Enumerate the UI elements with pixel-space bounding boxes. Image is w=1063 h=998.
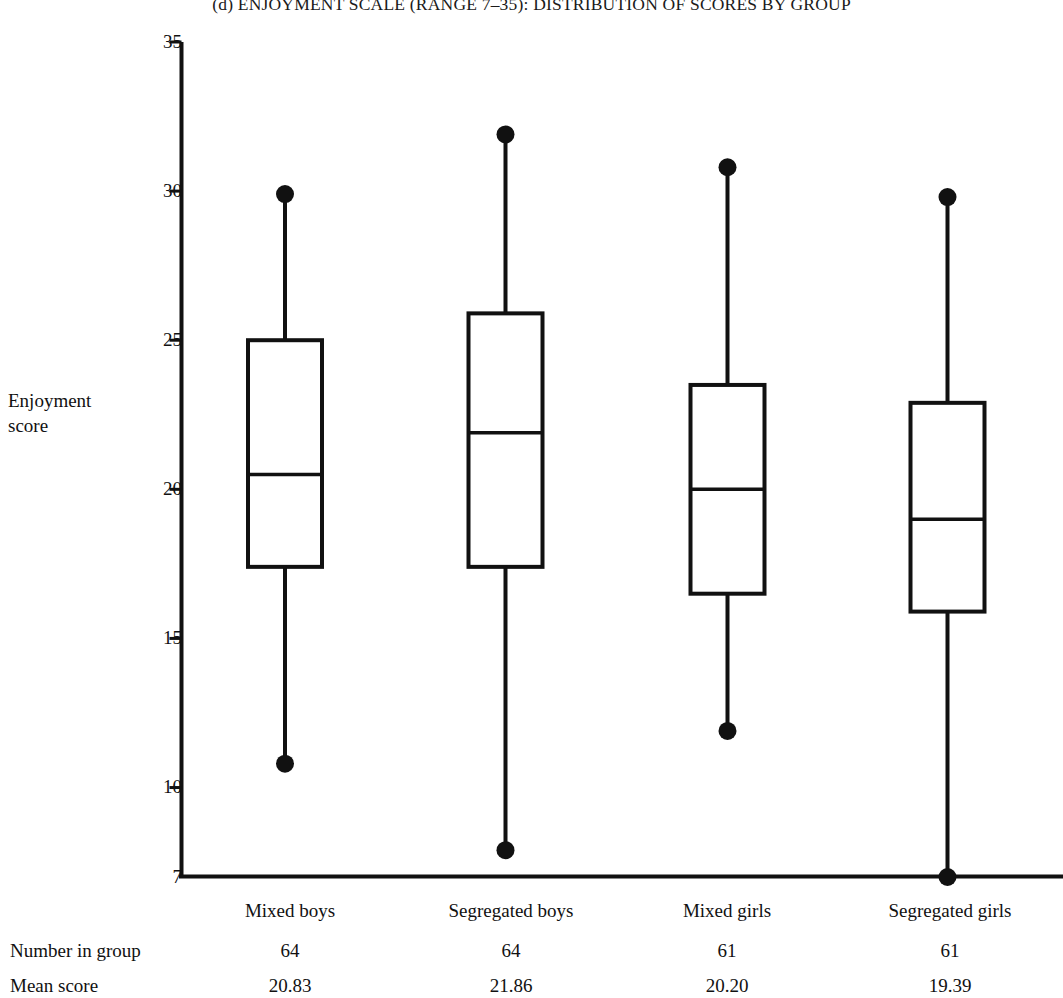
upper-extreme-dot: [939, 188, 957, 206]
lower-extreme-dot: [497, 841, 515, 859]
number-in-group-3: 61: [845, 940, 1055, 962]
number-in-group-2: 61: [632, 940, 822, 962]
lower-extreme-dot: [939, 868, 957, 886]
lower-extreme-dot: [719, 722, 737, 740]
upper-extreme-dot: [497, 125, 515, 143]
boxplot-group-3: [911, 188, 985, 886]
upper-extreme-dot: [276, 185, 294, 203]
box-iqr: [911, 403, 985, 612]
boxplot-group-2: [691, 158, 765, 740]
box-iqr: [248, 340, 322, 567]
boxplot-group-1: [469, 125, 543, 859]
group-label-2: Mixed girls: [632, 900, 822, 922]
mean-score-0: 20.83: [190, 975, 390, 997]
figure-container: (d) ENJOYMENT SCALE (RANGE 7–35): DISTRI…: [0, 0, 1063, 998]
boxplot-group-0: [248, 185, 322, 773]
number-in-group-1: 64: [406, 940, 616, 962]
mean-score-3: 19.39: [845, 975, 1055, 997]
box-iqr: [469, 313, 543, 566]
row-label-number-in-group: Number in group: [10, 940, 141, 962]
boxplot-canvas: [0, 0, 1063, 998]
group-label-1: Segregated boys: [406, 900, 616, 922]
mean-score-2: 20.20: [632, 975, 822, 997]
lower-extreme-dot: [276, 755, 294, 773]
group-label-3: Segregated girls: [845, 900, 1055, 922]
group-label-0: Mixed boys: [190, 900, 390, 922]
mean-score-1: 21.86: [406, 975, 616, 997]
upper-extreme-dot: [719, 158, 737, 176]
number-in-group-0: 64: [190, 940, 390, 962]
box-plots: [248, 125, 985, 886]
row-label-mean-score: Mean score: [10, 975, 98, 997]
